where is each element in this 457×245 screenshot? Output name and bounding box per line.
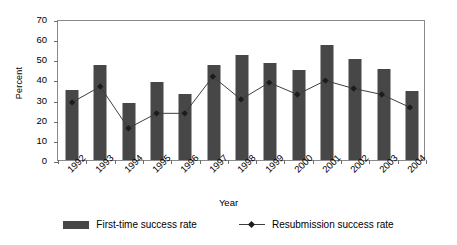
line-marker-diamond [294,91,300,97]
y-axis-tick-label: 20 [36,115,47,126]
line-marker-diamond [350,85,356,91]
line-marker-diamond [322,77,328,83]
chart-figure: Percent 010203040506070 1992199319941995… [0,0,457,245]
y-axis-tick-label: 40 [36,74,47,85]
y-axis-tick-label: 50 [36,54,47,65]
line-marker-swatch-icon [239,221,265,229]
y-axis-tick-label: 70 [36,14,47,25]
chart-legend: First-time success rate Resubmission suc… [0,219,457,230]
legend-item-resubmission: Resubmission success rate [239,219,394,230]
legend-label-first-time: First-time success rate [96,219,197,230]
line-marker-diamond [97,83,103,89]
y-axis-title: Percent [14,43,24,123]
y-axis-tick-label: 60 [36,34,47,45]
legend-label-resubmission: Resubmission success rate [272,219,394,230]
legend-item-first-time: First-time success rate [63,219,197,230]
x-axis-tick-mark [58,160,59,164]
line-marker-diamond [125,125,131,131]
line-marker-diamond [266,79,272,85]
line-marker-diamond [153,110,159,116]
plot-area: 010203040506070 [57,20,425,161]
line-series [58,21,424,160]
x-axis-title: Year [0,197,457,208]
bar-swatch-icon [63,221,89,229]
y-axis-tick-label: 30 [36,95,47,106]
y-axis-tick-label: 0 [42,155,47,166]
y-axis-tick-label: 10 [36,135,47,146]
line-marker-diamond [379,91,385,97]
line-marker-diamond [69,99,75,105]
line-marker-diamond [407,104,413,110]
